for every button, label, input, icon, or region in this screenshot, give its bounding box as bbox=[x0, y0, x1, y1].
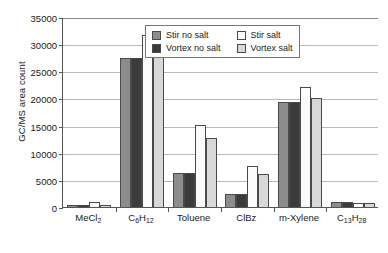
bar bbox=[206, 138, 217, 207]
bar bbox=[331, 202, 342, 207]
y-axis-title: GC/MS area count bbox=[16, 27, 27, 177]
bar-chart: GC/MS area count 05000100001500020000250… bbox=[0, 0, 388, 253]
x-tick-label: C6H12 bbox=[128, 212, 153, 223]
x-tick-mark bbox=[326, 207, 327, 212]
bar bbox=[278, 102, 289, 207]
x-tick-label: C13H28 bbox=[337, 212, 366, 223]
legend-swatch-icon bbox=[152, 31, 161, 40]
bar-group bbox=[63, 18, 116, 207]
bar bbox=[67, 205, 78, 207]
legend-label: Stir no salt bbox=[166, 30, 209, 40]
x-tick-mark bbox=[116, 207, 117, 212]
x-tick-label: MeCl2 bbox=[75, 212, 101, 223]
bar bbox=[353, 203, 364, 207]
legend-entry: Stir no salt bbox=[152, 30, 221, 40]
chart-legend: Stir no saltStir saltVortex no saltVorte… bbox=[145, 25, 300, 58]
y-tick-label: 20000 bbox=[31, 94, 57, 105]
bar bbox=[120, 58, 131, 207]
bar bbox=[142, 35, 153, 207]
x-tick-mark bbox=[274, 207, 275, 212]
bar bbox=[89, 202, 100, 207]
bar bbox=[311, 98, 322, 207]
y-tick-label: 5000 bbox=[36, 175, 57, 186]
legend-swatch-icon bbox=[152, 44, 161, 53]
bar bbox=[100, 205, 111, 207]
bar bbox=[195, 125, 206, 208]
legend-label: Vortex no salt bbox=[166, 43, 221, 53]
bar bbox=[300, 87, 311, 207]
legend-label: Vortex salt bbox=[251, 43, 293, 53]
legend-entry: Stir salt bbox=[237, 30, 293, 40]
y-tick-label: 30000 bbox=[31, 40, 57, 51]
y-tick-mark bbox=[59, 208, 63, 209]
x-tick-mark bbox=[168, 207, 169, 212]
x-tick-label: Toluene bbox=[177, 212, 210, 223]
bar bbox=[236, 194, 247, 207]
legend-swatch-icon bbox=[237, 44, 246, 53]
legend-label: Stir salt bbox=[251, 30, 281, 40]
bar-group bbox=[326, 18, 379, 207]
bar bbox=[131, 58, 142, 207]
bar bbox=[247, 166, 258, 207]
legend-swatch-icon bbox=[237, 31, 246, 40]
bar bbox=[289, 102, 300, 207]
bar bbox=[173, 173, 184, 207]
bar bbox=[184, 173, 195, 207]
bar bbox=[364, 203, 375, 207]
y-tick-label: 15000 bbox=[31, 121, 57, 132]
legend-entry: Vortex salt bbox=[237, 43, 293, 53]
y-tick-label: 10000 bbox=[31, 148, 57, 159]
legend-entry: Vortex no salt bbox=[152, 43, 221, 53]
y-tick-label: 0 bbox=[52, 203, 57, 214]
bar bbox=[153, 52, 164, 207]
bar bbox=[225, 194, 236, 207]
y-tick-label: 35000 bbox=[31, 13, 57, 24]
x-tick-label: ClBz bbox=[236, 212, 256, 223]
y-tick-label: 25000 bbox=[31, 67, 57, 78]
x-tick-mark bbox=[221, 207, 222, 212]
bar bbox=[78, 205, 89, 207]
bar bbox=[258, 174, 269, 207]
bar bbox=[342, 202, 353, 207]
x-tick-label: m-Xylene bbox=[279, 212, 319, 223]
